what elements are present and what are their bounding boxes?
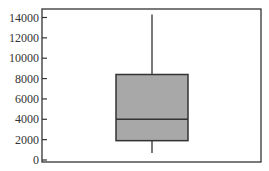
box-plot-chart: 02000400060008000100001200014000 <box>0 0 269 171</box>
y-tick-label: 2000 <box>15 133 39 147</box>
y-tick-label: 12000 <box>9 31 39 45</box>
box-group <box>116 14 188 152</box>
iqr-box <box>116 75 188 141</box>
y-tick-label: 10000 <box>9 51 39 65</box>
y-tick-label: 8000 <box>15 72 39 86</box>
y-tick-label: 0 <box>33 153 39 167</box>
y-tick-label: 14000 <box>9 11 39 25</box>
y-tick-label: 6000 <box>15 92 39 106</box>
y-axis: 02000400060008000100001200014000 <box>9 11 47 168</box>
y-tick-label: 4000 <box>15 112 39 126</box>
